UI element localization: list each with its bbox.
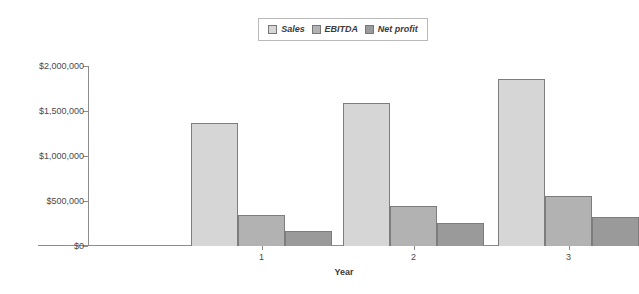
- bar-netprofit-year-1[interactable]: [285, 231, 332, 246]
- legend-label-ebitda: EBITDA: [325, 25, 359, 34]
- bar-ebitda-year-2[interactable]: [390, 206, 437, 246]
- legend-item-ebitda: EBITDA: [312, 25, 359, 34]
- bar-group-year-3: [498, 66, 639, 246]
- bar-netprofit-year-2[interactable]: [437, 223, 484, 246]
- x-axis-category-label: 2: [411, 253, 416, 262]
- x-axis-tick: [569, 246, 570, 250]
- y-axis-tick-label: $2,000,000: [39, 62, 84, 71]
- x-axis-category-label: 1: [259, 253, 264, 262]
- bar-netprofit-year-3[interactable]: [592, 217, 639, 246]
- bar-group-year-2: [343, 66, 484, 246]
- legend-swatch-net-profit: [365, 25, 374, 34]
- bar-sales-year-1[interactable]: [191, 123, 238, 246]
- legend-label-net-profit: Net profit: [378, 25, 418, 34]
- y-axis-tick-label: $0: [74, 242, 84, 251]
- y-axis-tick-label: $1,000,000: [39, 152, 84, 161]
- chart-plot-area: $0$500,000$1,000,000$1,500,000$2,000,000…: [88, 66, 600, 246]
- x-axis-title: Year: [334, 268, 353, 277]
- chart-legend: Sales EBITDA Net profit: [258, 18, 428, 41]
- bar-ebitda-year-1[interactable]: [238, 215, 285, 246]
- legend-item-net-profit: Net profit: [365, 25, 418, 34]
- bar-ebitda-year-3[interactable]: [545, 196, 592, 246]
- y-axis-tick-label: $500,000: [46, 197, 84, 206]
- y-axis-tick-label: $1,500,000: [39, 107, 84, 116]
- bar-group-year-1: [191, 66, 332, 246]
- legend-label-sales: Sales: [281, 25, 305, 34]
- bar-sales-year-3[interactable]: [498, 79, 545, 246]
- x-axis-category-label: 3: [566, 253, 571, 262]
- bar-sales-year-2[interactable]: [343, 103, 390, 246]
- legend-swatch-ebitda: [312, 25, 321, 34]
- y-axis-line: [88, 66, 89, 246]
- x-axis-tick: [262, 246, 263, 250]
- x-axis-tick: [414, 246, 415, 250]
- legend-item-sales: Sales: [268, 25, 305, 34]
- legend-swatch-sales: [268, 25, 277, 34]
